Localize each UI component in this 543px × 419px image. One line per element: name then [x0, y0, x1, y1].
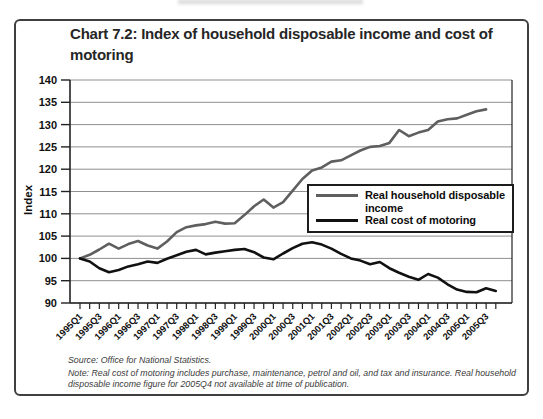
legend-item-motoring: Real cost of motoring [316, 214, 507, 227]
motoring-line-swatch [316, 219, 358, 222]
y-tick-label: 90 [45, 297, 57, 309]
legend-item-income: Real household disposable income [316, 189, 507, 214]
y-tick-label: 130 [39, 119, 57, 131]
y-tick-label: 120 [39, 163, 57, 175]
y-tick-label: 100 [39, 252, 57, 264]
chart-footer: Source: Office for National Statistics. … [68, 355, 530, 391]
legend-label-motoring: Real cost of motoring [365, 214, 476, 227]
series-line-motoring [80, 242, 496, 292]
y-tick-label: 105 [39, 230, 57, 242]
source-text: Source: Office for National Statistics. [68, 355, 530, 367]
y-tick-label: 140 [39, 74, 57, 86]
y-tick-label: 125 [39, 141, 57, 153]
note-text: Note: Real cost of motoring includes pur… [68, 368, 530, 391]
y-tick-label: 95 [45, 275, 57, 287]
legend-label-income: Real household disposable income [365, 189, 507, 214]
income-line-swatch [316, 194, 358, 197]
y-tick-label: 110 [39, 208, 57, 220]
page: Chart 7.2: Index of household disposable… [0, 0, 543, 419]
y-tick-label: 135 [39, 96, 57, 108]
y-tick-label: 115 [39, 186, 57, 198]
chart-legend: Real household disposable income Real co… [307, 184, 514, 233]
